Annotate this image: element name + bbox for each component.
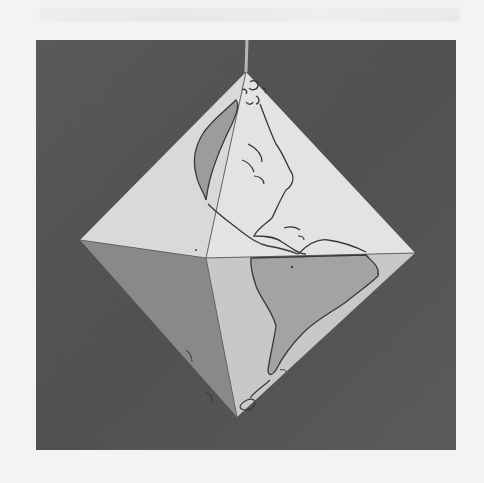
photo [36, 40, 456, 450]
grain-overlay [36, 40, 456, 450]
bleed-through-text [40, 8, 460, 22]
octahedron-globe-illustration [36, 40, 456, 450]
